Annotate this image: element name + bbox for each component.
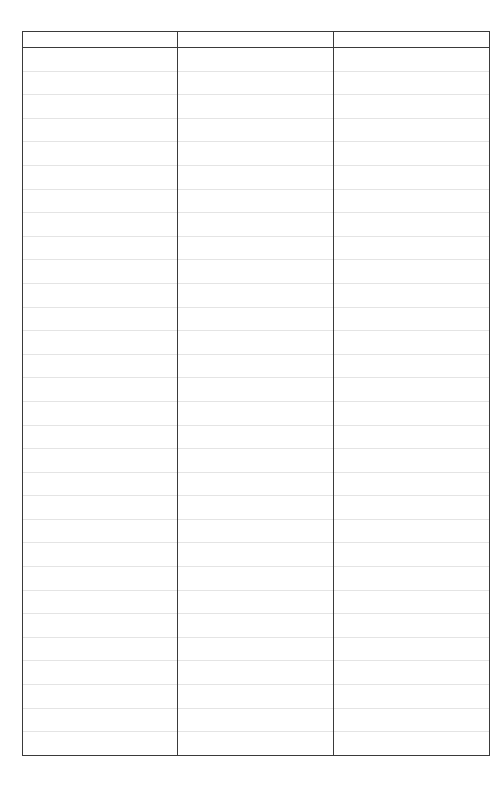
table-cell	[23, 449, 178, 473]
table-cell	[334, 378, 490, 402]
table-row	[23, 472, 490, 496]
table-row	[23, 614, 490, 638]
table-row	[23, 567, 490, 591]
table-row	[23, 354, 490, 378]
table-cell	[178, 71, 334, 95]
table-row	[23, 732, 490, 756]
table-cell	[23, 614, 178, 638]
table-cell	[334, 213, 490, 237]
table-cell	[23, 354, 178, 378]
table-cell	[334, 519, 490, 543]
table-row	[23, 165, 490, 189]
table-cell	[334, 590, 490, 614]
table-cell	[23, 165, 178, 189]
table-cell	[23, 519, 178, 543]
table-cell	[178, 354, 334, 378]
table-cell	[334, 307, 490, 331]
table-cell	[178, 118, 334, 142]
table-cell	[334, 637, 490, 661]
table-cell	[23, 307, 178, 331]
table-cell	[334, 236, 490, 260]
table-cell	[334, 685, 490, 709]
table-row	[23, 283, 490, 307]
table-row	[23, 95, 490, 119]
table-cell	[23, 401, 178, 425]
table-cell	[23, 71, 178, 95]
table-cell	[178, 543, 334, 567]
table-cell	[23, 732, 178, 756]
table-row	[23, 496, 490, 520]
table-row	[23, 519, 490, 543]
table-row	[23, 401, 490, 425]
table-cell	[178, 567, 334, 591]
table-cell	[334, 425, 490, 449]
table-cell	[23, 661, 178, 685]
table-row	[23, 449, 490, 473]
table-cell	[178, 661, 334, 685]
table-cell	[178, 472, 334, 496]
table-cell	[178, 496, 334, 520]
table-cell	[23, 95, 178, 119]
table-cell	[334, 71, 490, 95]
table-row	[23, 637, 490, 661]
table-cell	[178, 260, 334, 284]
table-row	[23, 142, 490, 166]
table-cell	[178, 189, 334, 213]
table-cell	[23, 567, 178, 591]
table-cell	[178, 614, 334, 638]
table-row	[23, 685, 490, 709]
table-cell	[23, 213, 178, 237]
table-cell	[23, 708, 178, 732]
table-cell	[334, 614, 490, 638]
table-cell	[178, 48, 334, 72]
table-cell	[334, 118, 490, 142]
table-cell	[178, 401, 334, 425]
table-row	[23, 543, 490, 567]
table-cell	[178, 236, 334, 260]
table-row	[23, 260, 490, 284]
table-cell	[334, 142, 490, 166]
table-cell	[178, 425, 334, 449]
table-row	[23, 590, 490, 614]
table-cell	[334, 708, 490, 732]
table-cell	[334, 567, 490, 591]
table-row	[23, 425, 490, 449]
table-cell	[23, 685, 178, 709]
blank-grid-table	[22, 31, 490, 756]
column-header-1	[23, 32, 178, 48]
table-cell	[178, 637, 334, 661]
table-cell	[23, 472, 178, 496]
table-cell	[334, 661, 490, 685]
table-cell	[334, 401, 490, 425]
table-cell	[23, 260, 178, 284]
table-row	[23, 331, 490, 355]
table-cell	[334, 95, 490, 119]
table-cell	[334, 189, 490, 213]
table-cell	[178, 708, 334, 732]
table-cell	[334, 260, 490, 284]
table-row	[23, 213, 490, 237]
table-cell	[178, 283, 334, 307]
table-cell	[178, 95, 334, 119]
table-cell	[334, 496, 490, 520]
table-cell	[178, 165, 334, 189]
table-cell	[23, 142, 178, 166]
table-cell	[23, 637, 178, 661]
table-header	[23, 32, 490, 48]
table-cell	[178, 685, 334, 709]
table-cell	[23, 425, 178, 449]
table-row	[23, 48, 490, 72]
table-cell	[23, 496, 178, 520]
table-cell	[334, 732, 490, 756]
table-cell	[23, 48, 178, 72]
table-cell	[178, 213, 334, 237]
table-row	[23, 189, 490, 213]
table-cell	[334, 48, 490, 72]
table-row	[23, 661, 490, 685]
table-cell	[334, 472, 490, 496]
table-cell	[23, 590, 178, 614]
header-row	[23, 32, 490, 48]
table-cell	[178, 449, 334, 473]
table-cell	[23, 543, 178, 567]
table-body	[23, 48, 490, 756]
